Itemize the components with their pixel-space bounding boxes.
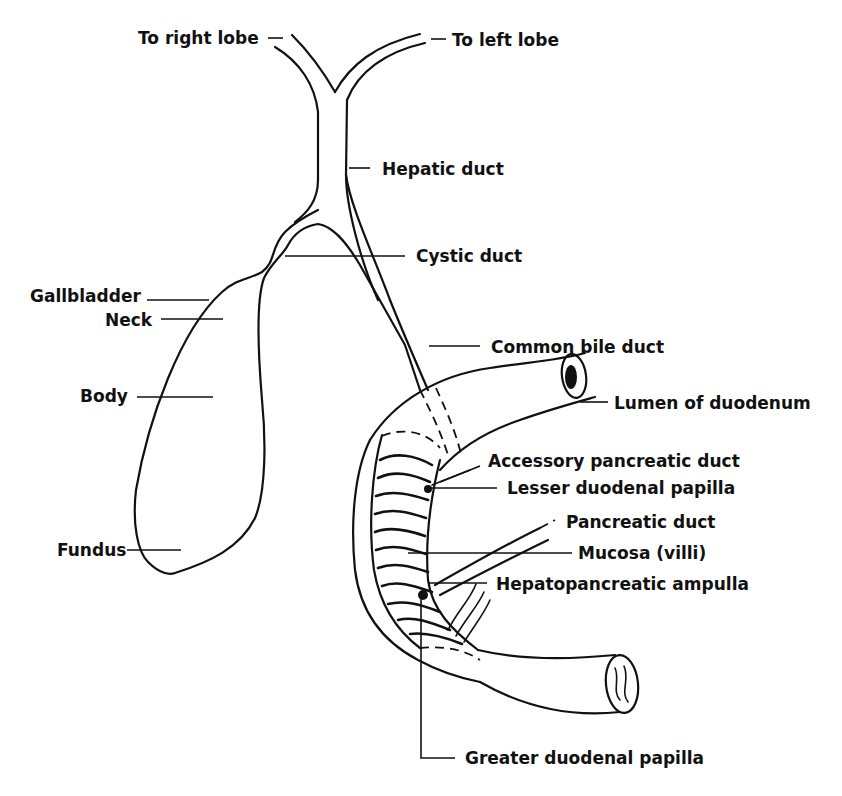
biliary-tract-diagram: To right lobe To left lobe Hepatic duct … [0, 0, 842, 796]
label-hepatic-duct: Hepatic duct [382, 159, 504, 179]
label-cystic-duct: Cystic duct [416, 246, 522, 266]
label-neck: Neck [105, 310, 153, 330]
label-body: Body [80, 386, 128, 406]
label-common-bile-duct: Common bile duct [491, 337, 664, 357]
label-pancreatic-duct: Pancreatic duct [566, 512, 715, 532]
leader-lines [127, 38, 608, 758]
lumen-opening [565, 365, 577, 389]
label-greater-duodenal-papilla: Greater duodenal papilla [465, 748, 704, 768]
label-to-right-lobe: To right lobe [138, 28, 259, 48]
mucosa-folds [375, 455, 490, 644]
label-lumen-of-duodenum: Lumen of duodenum [614, 393, 811, 413]
label-to-left-lobe: To left lobe [452, 30, 559, 50]
label-fundus: Fundus [57, 540, 126, 560]
label-gallbladder: Gallbladder [30, 286, 141, 306]
label-lesser-duodenal-papilla: Lesser duodenal papilla [507, 478, 735, 498]
label-hepatopancreatic-ampulla: Hepatopancreatic ampulla [496, 574, 749, 594]
label-mucosa-villi: Mucosa (villi) [578, 543, 706, 563]
greater-papilla-dot [418, 590, 428, 600]
duodenum-drawing [353, 353, 641, 715]
lesser-papilla-dot [424, 485, 432, 493]
label-accessory-pancreatic-duct: Accessory pancreatic duct [488, 451, 740, 471]
